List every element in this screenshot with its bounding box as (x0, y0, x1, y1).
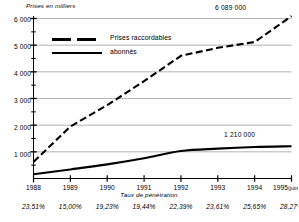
x-axis-title: Taux de pénétration (0, 191, 298, 198)
dashed-line-swatch-icon (52, 38, 102, 41)
penetration-rate-1994: 25,65% (235, 203, 275, 210)
solid-line-swatch-icon (52, 52, 102, 54)
x-tick-suffix: (juin) (288, 185, 298, 191)
x-tick-1995: 1995(juin) (267, 184, 299, 191)
x-tick-1993: 1993 (198, 184, 238, 191)
x-tick-1990: 1990 (87, 184, 127, 191)
legend-label-prises-raccordables: Prises raccordables (110, 34, 172, 41)
series-abonnes-line (34, 146, 292, 174)
line-chart-figure: Prises en milliers 6 089 000 1 210 000 6… (0, 0, 298, 222)
x-tick-1992: 1992 (161, 184, 201, 191)
x-tick-1991: 1991 (124, 184, 164, 191)
penetration-rate-1992: 22,39% (161, 203, 201, 210)
penetration-rate-1990: 19,23% (87, 203, 127, 210)
penetration-rate-1995: 28,27% (272, 203, 299, 210)
penetration-rate-1989: 15,00% (50, 203, 90, 210)
x-tick-1988: 1988 (14, 184, 54, 191)
penetration-rate-1991: 19,44% (124, 203, 164, 210)
penetration-rate-1988: 23,51% (14, 203, 54, 210)
legend-label-abonnes: abonnés (110, 48, 137, 55)
penetration-rate-1993: 23,61% (198, 203, 238, 210)
x-tick-1989: 1989 (50, 184, 90, 191)
